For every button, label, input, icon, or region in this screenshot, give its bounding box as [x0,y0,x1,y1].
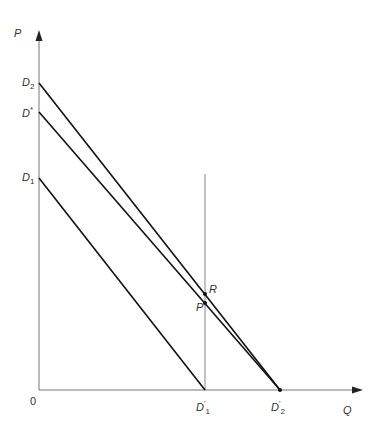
line-d1 [39,178,205,390]
y-axis-label: P [14,28,21,39]
label-d1prime: D'1 [196,400,210,416]
y-axis-arrow-icon [36,30,43,41]
point-d2prime [278,388,282,392]
point-r [203,292,207,296]
x-axis-arrow-icon [352,387,363,394]
line-dstar [39,112,280,390]
point-p [203,301,207,305]
label-d2prime: D'2 [271,400,285,416]
x-axis-label: Q [343,405,352,416]
label-r: R [209,284,217,295]
line-d2 [39,83,280,390]
label-d1: D1 [22,172,34,186]
diagram-canvas [0,0,381,431]
origin-label: 0 [30,396,36,407]
label-d2: D2 [22,77,34,91]
label-p: P [196,302,203,313]
label-dstar: D* [22,106,33,119]
